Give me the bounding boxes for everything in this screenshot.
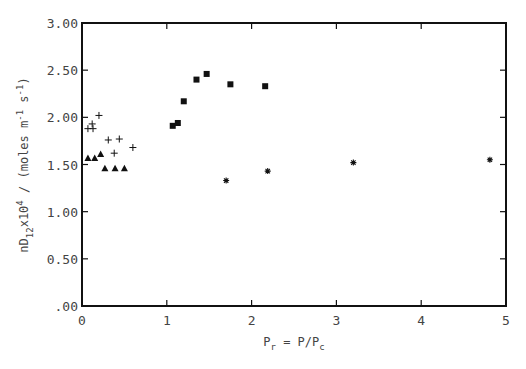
y-tick-label: .00	[55, 299, 78, 314]
plus-marker	[105, 136, 112, 143]
y-tick-label: 2.00	[47, 110, 78, 125]
asterisk-center	[267, 170, 269, 172]
x-tick-label: 3	[332, 313, 340, 328]
y-tick-label: 1.50	[47, 158, 78, 173]
square-marker	[262, 83, 268, 89]
x-tick-label: 4	[417, 313, 425, 328]
y-tick-label: 1.00	[47, 205, 78, 220]
x-tick-label: 2	[248, 313, 256, 328]
x-tick-label: 5	[502, 313, 510, 328]
y-axis: .000.501.001.502.002.503.00	[47, 16, 506, 314]
x-tick-label: 0	[78, 313, 86, 328]
plus-marker	[95, 112, 102, 119]
series-triangle	[84, 151, 127, 172]
plot-border	[82, 23, 506, 306]
y-tick-label: 0.50	[47, 252, 78, 267]
y-tick-label: 3.00	[47, 16, 78, 31]
y-axis-title: nD12x104 / (moles m-1 s-1)	[15, 77, 35, 252]
series-square	[170, 71, 268, 129]
triangle-marker	[91, 154, 98, 161]
asterisk-center	[352, 161, 354, 163]
square-marker	[175, 120, 181, 126]
plus-marker	[129, 144, 136, 151]
triangle-marker	[84, 154, 91, 161]
square-marker	[204, 71, 210, 77]
plus-marker	[116, 136, 123, 143]
triangle-marker	[121, 165, 128, 172]
x-axis: 012345	[78, 23, 510, 328]
triangle-marker	[101, 165, 108, 172]
plus-marker	[111, 150, 118, 157]
plus-marker	[90, 125, 97, 132]
scatter-chart: .000.501.001.502.002.503.00 012345 Pr = …	[0, 0, 526, 369]
series-asterisk	[223, 157, 493, 184]
triangle-marker	[112, 165, 119, 172]
data-points	[84, 71, 492, 184]
triangle-marker	[97, 151, 104, 158]
square-marker	[227, 81, 233, 87]
x-tick-label: 1	[163, 313, 171, 328]
plus-marker	[89, 120, 96, 127]
plot-frame	[82, 23, 506, 306]
square-marker	[181, 98, 187, 104]
series-plus	[84, 112, 136, 157]
y-tick-label: 2.50	[47, 63, 78, 78]
square-marker	[193, 77, 199, 83]
asterisk-center	[489, 159, 491, 161]
asterisk-center	[225, 179, 227, 181]
x-axis-title: Pr = P/Pc	[263, 335, 324, 352]
